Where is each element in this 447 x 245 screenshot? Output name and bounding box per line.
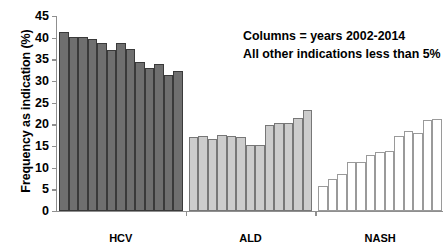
annotation-line-2: All other indications less than 5% <box>243 46 441 64</box>
y-tick-label: 25 <box>35 96 49 110</box>
bar-hcv-2004 <box>78 37 88 211</box>
bar-ald-2014 <box>303 110 313 211</box>
y-tick-label: 45 <box>35 9 49 23</box>
bar-hcv-2002 <box>59 32 69 211</box>
figure-caption <box>0 239 447 245</box>
bar-nash-2007 <box>366 155 376 211</box>
bar-ald-2012 <box>284 123 294 211</box>
bar-nash-2005 <box>347 162 357 211</box>
bar-nash-2006 <box>356 162 366 211</box>
y-tick-label: 30 <box>35 74 49 88</box>
bar-ald-2003 <box>198 136 208 211</box>
bar-hcv-2009 <box>126 49 136 211</box>
bar-hcv-2014 <box>173 71 183 211</box>
y-tick-label: 20 <box>35 117 49 131</box>
bar-ald-2007 <box>236 137 246 211</box>
x-group-separator-tick <box>315 211 316 216</box>
bar-hcv-2011 <box>145 68 155 211</box>
y-tick-label: 5 <box>42 182 49 196</box>
y-tick <box>52 211 57 212</box>
bar-nash-2014 <box>432 119 442 211</box>
y-tick-label: 40 <box>35 31 49 45</box>
bar-nash-2011 <box>404 131 414 211</box>
bar-nash-2012 <box>413 133 423 211</box>
bar-hcv-2013 <box>164 75 174 212</box>
annotation-line-1: Columns = years 2002-2014 <box>243 28 441 46</box>
bar-hcv-2008 <box>116 43 126 211</box>
bar-nash-2009 <box>385 151 395 211</box>
bar-nash-2004 <box>337 174 347 211</box>
bar-nash-2008 <box>375 152 385 211</box>
bar-ald-2009 <box>255 145 265 211</box>
y-tick-label: 0 <box>42 204 49 218</box>
bar-ald-2008 <box>246 145 256 211</box>
bar-ald-2010 <box>265 125 275 211</box>
bar-hcv-2003 <box>69 37 79 211</box>
chart-annotation: Columns = years 2002-2014 All other indi… <box>243 28 441 63</box>
x-group-separator-tick <box>186 211 187 216</box>
bar-nash-2013 <box>423 120 433 211</box>
bar-ald-2006 <box>227 136 237 211</box>
y-tick-label: 10 <box>35 161 49 175</box>
bar-chart: Frequency as indication (%) 454035302520… <box>0 0 447 245</box>
bar-hcv-2006 <box>97 43 107 211</box>
bar-ald-2005 <box>217 135 227 211</box>
x-axis-line <box>56 211 443 212</box>
y-tick-label: 15 <box>35 139 49 153</box>
bar-ald-2011 <box>274 123 284 211</box>
y-axis-title: Frequency as indication (%) <box>19 11 33 211</box>
bar-hcv-2005 <box>88 39 98 211</box>
bar-ald-2004 <box>208 139 218 211</box>
bar-nash-2010 <box>394 136 404 211</box>
bar-hcv-2010 <box>135 62 145 212</box>
bar-ald-2002 <box>189 137 199 211</box>
bar-hcv-2007 <box>107 50 117 211</box>
y-tick-label: 35 <box>35 52 49 66</box>
bar-nash-2002 <box>318 186 328 211</box>
bar-nash-2003 <box>328 179 338 211</box>
bar-ald-2013 <box>293 118 303 211</box>
bar-hcv-2012 <box>154 64 164 211</box>
